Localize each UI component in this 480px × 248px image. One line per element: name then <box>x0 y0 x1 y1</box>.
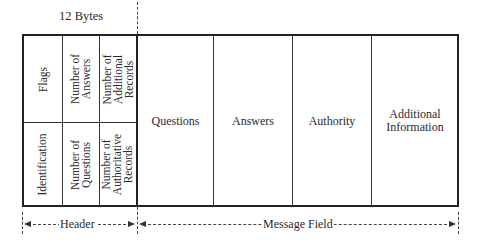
header-label: Header <box>59 217 96 231</box>
dim-tick-left <box>22 212 23 234</box>
arrow-left-icon <box>24 221 31 227</box>
header-cell-answers-count: Number of Answers <box>63 36 99 122</box>
section-authority: Authority <box>293 36 371 206</box>
section-answers: Answers <box>214 36 292 206</box>
header-cell-identification: Identification <box>24 123 62 206</box>
arrow-right-icon <box>449 221 456 227</box>
header-cell-additional-count: Number of Additional Records <box>100 36 136 122</box>
bytes-annotation: 12 Bytes <box>59 9 103 24</box>
dim-tick-right <box>458 212 459 234</box>
section-additional-information: Additional Information <box>372 36 458 206</box>
bytes-boundary-marker <box>137 2 138 34</box>
arrow-left-icon <box>139 221 146 227</box>
message-field-label: Message Field <box>262 217 334 231</box>
section-questions: Questions <box>138 36 213 206</box>
header-cell-questions-count: Number of Questions <box>63 123 99 206</box>
header-cell-authoritative-count: Number of Authoritative Records <box>100 123 136 206</box>
dim-tick-middle <box>137 207 138 234</box>
header-cell-flags: Flags <box>24 36 62 122</box>
arrow-right-icon <box>128 221 135 227</box>
